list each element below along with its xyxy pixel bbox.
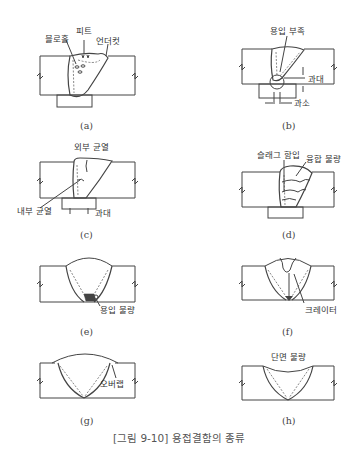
label-lack-of-penetration: 용입 부족 (270, 26, 305, 36)
label-lack-of-fusion: 융합 불량 (306, 154, 341, 164)
panel-e: 용입 불량 (e) (37, 258, 138, 337)
label-excessive: 과대 (308, 74, 324, 84)
panel-a: 블로홀 피트 언더컷 (a) (37, 26, 138, 131)
panel-label-b: (b) (282, 120, 296, 131)
label-slag-inclusion: 슬래그 함입 (257, 150, 300, 160)
label-overlap: 오버랩 (100, 379, 124, 389)
label-external-crack: 외부 균열 (74, 142, 109, 152)
label-incomplete-penetration: 용입 불량 (100, 305, 135, 315)
figure-caption: [그림 9-10] 용접결함의 종류 (0, 430, 358, 445)
label-undercut: 언더컷 (96, 36, 120, 46)
label-blowhole: 블로홀 (45, 34, 69, 44)
weld-defects-diagram: 블로홀 피트 언더컷 (a) 용입 부족 과대 과소 (b) (0, 0, 358, 460)
panel-h: 단면 불량 (h) (239, 352, 337, 426)
panel-label-g: (g) (80, 415, 94, 426)
panel-label-c: (c) (80, 229, 93, 240)
panel-label-d: (d) (282, 229, 296, 240)
panel-label-e: (e) (80, 326, 93, 337)
label-internal-crack: 내부 균열 (17, 206, 52, 216)
panel-f: 크레이터 (f) (239, 258, 337, 337)
panel-g: 오버랩 (g) (37, 354, 138, 426)
label-pit: 피트 (76, 26, 92, 36)
label-crater: 크레이터 (305, 305, 337, 315)
panel-label-f: (f) (282, 326, 293, 337)
panel-label-a: (a) (80, 120, 93, 131)
panel-label-h: (h) (282, 415, 296, 426)
label-improper-profile: 단면 불량 (271, 352, 306, 362)
panel-d: 슬래그 함입 융합 불량 (d) (239, 150, 341, 240)
label-excessive-c: 과대 (95, 208, 111, 218)
panel-b: 용입 부족 과대 과소 (b) (239, 26, 337, 131)
label-insufficient: 과소 (294, 98, 310, 108)
panel-c: 외부 균열 내부 균열 과대 (c) (17, 142, 138, 240)
